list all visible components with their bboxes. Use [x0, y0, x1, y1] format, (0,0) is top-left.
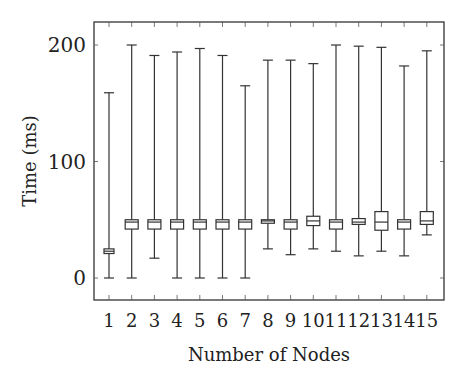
x-tick-label: 3 [149, 310, 160, 331]
box-node-7 [239, 86, 252, 278]
iqr-box [398, 220, 411, 229]
y-axis-title: Time (ms) [19, 115, 40, 207]
box-node-5 [193, 48, 206, 278]
iqr-box [375, 212, 388, 231]
iqr-box [420, 212, 433, 225]
box-plot-chart: 0100200 123456789101112131415 Number of … [0, 0, 459, 385]
iqr-box [193, 220, 206, 229]
iqr-box [284, 220, 297, 229]
box-node-1 [104, 93, 114, 278]
iqr-box [148, 220, 161, 229]
x-tick-label: 13 [370, 310, 393, 331]
iqr-box [239, 220, 252, 229]
x-tick-label: 2 [126, 310, 137, 331]
x-tick-label: 9 [285, 310, 296, 331]
x-tick-label: 10 [302, 310, 325, 331]
x-tick-label: 1 [103, 310, 114, 331]
box-node-12 [352, 46, 365, 256]
plot-frame [94, 22, 444, 300]
box-node-10 [307, 64, 320, 249]
box-series [104, 45, 433, 278]
iqr-box [330, 220, 343, 229]
x-tick-label: 5 [194, 310, 205, 331]
box-node-13 [375, 47, 388, 251]
box-node-4 [171, 52, 184, 278]
box-node-6 [216, 55, 229, 278]
box-node-15 [420, 51, 433, 235]
box-node-11 [330, 45, 343, 251]
iqr-box [171, 220, 184, 229]
box-node-3 [148, 55, 161, 258]
x-tick-label: 12 [347, 310, 370, 331]
iqr-box [216, 220, 229, 229]
x-axis-ticks: 123456789101112131415 [103, 22, 438, 331]
x-tick-label: 7 [239, 310, 250, 331]
x-tick-label: 11 [325, 310, 348, 331]
x-tick-label: 6 [217, 310, 228, 331]
y-tick-label: 100 [48, 150, 86, 174]
y-tick-label: 200 [48, 33, 86, 57]
box-node-2 [125, 45, 138, 278]
x-tick-label: 8 [262, 310, 273, 331]
x-tick-label: 4 [171, 310, 182, 331]
box-node-8 [261, 60, 274, 249]
iqr-box [125, 220, 138, 229]
x-tick-label: 14 [393, 310, 416, 331]
box-node-9 [284, 60, 297, 255]
x-axis-title: Number of Nodes [188, 344, 350, 365]
box-node-14 [398, 66, 411, 256]
y-tick-label: 0 [73, 266, 86, 290]
x-tick-label: 15 [415, 310, 438, 331]
